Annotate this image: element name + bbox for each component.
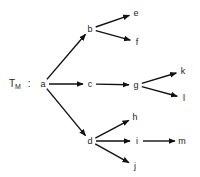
node-c: c	[88, 79, 93, 89]
edge-a-d	[47, 89, 86, 136]
edges	[47, 15, 177, 162]
node-i: i	[136, 136, 138, 146]
edge-b-f	[96, 31, 131, 40]
edge-g-k	[142, 73, 177, 83]
node-m: m	[178, 136, 186, 146]
title-separator: :	[28, 78, 31, 89]
edge-a-b	[47, 34, 86, 79]
node-f: f	[136, 37, 139, 47]
edge-g-l	[142, 87, 177, 97]
title-subscript: M	[15, 83, 21, 90]
tree-title: TM :	[9, 79, 31, 92]
edge-c-g	[96, 84, 129, 85]
node-k: k	[181, 66, 186, 76]
node-d: d	[87, 136, 92, 146]
node-g: g	[133, 80, 138, 90]
edge-b-e	[96, 15, 130, 27]
node-a: a	[40, 79, 45, 89]
node-j: j	[134, 161, 136, 171]
node-h: h	[132, 112, 137, 122]
edge-d-h	[95, 120, 129, 138]
node-l: l	[183, 93, 185, 103]
node-b: b	[87, 24, 92, 34]
node-e: e	[133, 8, 138, 18]
edge-d-j	[95, 144, 129, 163]
